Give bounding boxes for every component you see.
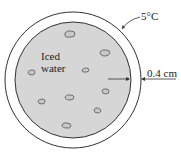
- ice-cube: [65, 31, 75, 38]
- outer-temperature-label: 5°C: [141, 11, 158, 22]
- thickness-label: 0.4 cm: [147, 68, 177, 79]
- ice-cube: [94, 108, 101, 113]
- iced-water-region: [15, 22, 131, 138]
- ice-cube: [102, 89, 109, 94]
- ice-cube: [100, 50, 110, 56]
- ice-cube: [65, 95, 74, 100]
- ice-cube: [62, 123, 71, 129]
- ice-cube: [82, 68, 89, 72]
- contents-label: Iced water: [41, 50, 65, 74]
- contents-label-line2: water: [41, 62, 65, 74]
- ice-cube: [38, 99, 45, 104]
- arrowhead-right: [141, 77, 145, 81]
- ice-cube: [28, 70, 35, 75]
- contents-label-line1: Iced: [41, 50, 65, 62]
- sphere-diagram: [0, 0, 181, 164]
